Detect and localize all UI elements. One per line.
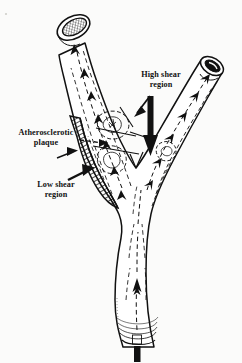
inflow-stem-marker xyxy=(134,346,141,362)
label-high-shear-region-line2: region xyxy=(130,80,192,90)
label-low-shear-region-line2: region xyxy=(22,190,90,200)
label-atherosclerotic-plaque: Atherosclerotic plaque xyxy=(4,128,88,148)
label-low-shear-region: Low shear region xyxy=(22,180,90,200)
label-high-shear-region: High shear region xyxy=(130,70,192,90)
label-low-shear-region-line1: Low shear xyxy=(22,180,90,190)
scan-speck xyxy=(5,13,7,15)
label-high-shear-region-line1: High shear xyxy=(130,70,192,80)
label-atherosclerotic-plaque-line2: plaque xyxy=(4,138,88,148)
figure-page: Atherosclerotic plaque Low shear region … xyxy=(0,0,242,363)
plaque-edge-pointer-arrow xyxy=(57,147,78,158)
high-shear-region-pointer-arrow xyxy=(130,96,150,138)
label-atherosclerotic-plaque-line1: Atherosclerotic xyxy=(4,128,88,138)
left-branch-lumen-opening xyxy=(53,10,94,46)
